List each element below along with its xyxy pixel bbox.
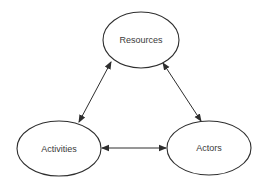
node-activities: Activities <box>17 121 101 176</box>
node-resources: Resources <box>103 12 179 68</box>
edge-resources-actors <box>163 63 201 121</box>
activities-label: Activities <box>41 144 77 154</box>
node-actors: Actors <box>167 121 251 175</box>
relationship-diagram: Resources Activities Actors <box>0 0 269 190</box>
resources-label: Resources <box>119 35 163 45</box>
actors-label: Actors <box>196 143 222 153</box>
edge-resources-activities <box>79 62 111 122</box>
